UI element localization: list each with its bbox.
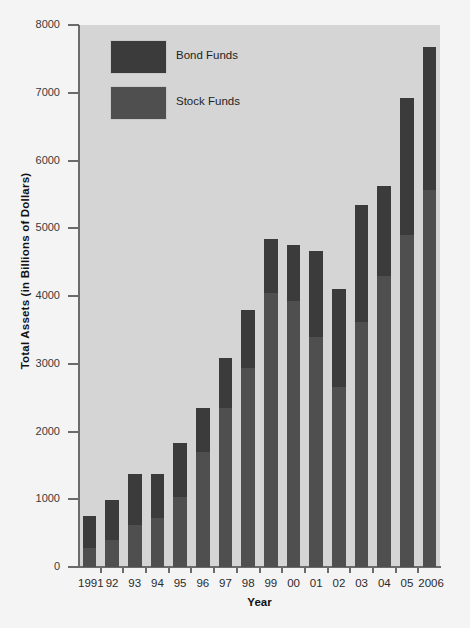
bar-97 [219, 358, 233, 567]
x-axis-tick [190, 566, 192, 573]
x-axis-tick-label: 92 [101, 576, 124, 590]
bar-segment-bond [423, 47, 437, 190]
bar-segment-bond [219, 358, 233, 408]
bar-segment-bond [264, 239, 278, 293]
bar-01 [309, 251, 323, 567]
x-axis-tick-label: 94 [146, 576, 169, 590]
x-axis-tick-label: 1991 [78, 576, 101, 590]
x-axis-tick [168, 566, 170, 573]
bar-segment-stock [332, 387, 346, 567]
bar-segment-bond [355, 205, 369, 322]
y-axis-title: Total Assets (in Billions of Dollars) [19, 141, 31, 401]
x-axis-tick [122, 566, 124, 573]
x-axis-tick-label: 02 [328, 576, 351, 590]
x-axis-tick-label: 99 [260, 576, 283, 590]
bar-segment-stock [264, 293, 278, 567]
y-axis-tick-label: 2000 [14, 426, 60, 437]
x-axis-tick [145, 566, 147, 573]
x-axis-tick-label: 04 [373, 576, 396, 590]
x-axis-tick [395, 566, 397, 573]
bar-03 [355, 205, 369, 567]
bar-2006 [423, 47, 437, 567]
y-axis-tick-label: 1000 [14, 493, 60, 504]
bar-segment-bond [241, 310, 255, 368]
bar-1991 [83, 516, 97, 567]
x-axis-tick-label: 95 [169, 576, 192, 590]
bar-94 [151, 474, 165, 567]
x-axis-tick-label: 05 [396, 576, 419, 590]
bar-segment-stock [105, 540, 119, 567]
bar-segment-bond [332, 289, 346, 388]
bar-segment-stock [241, 368, 255, 567]
legend-label-stock: Stock Funds [176, 95, 240, 107]
bar-segment-stock [309, 337, 323, 567]
bar-segment-stock [151, 518, 165, 567]
x-axis-tick-label: 01 [305, 576, 328, 590]
bar-segment-stock [377, 276, 391, 567]
bar-segment-stock [219, 408, 233, 567]
x-axis-tick [304, 566, 306, 573]
bar-segment-stock [83, 548, 97, 567]
bar-segment-bond [196, 408, 210, 452]
bar-segment-bond [400, 98, 414, 236]
bar-segment-bond [128, 474, 142, 525]
x-axis-tick [100, 566, 102, 573]
bar-98 [241, 310, 255, 567]
bar-93 [128, 474, 142, 567]
x-axis-tick-label: 00 [282, 576, 305, 590]
chart-figure: 010002000300040005000600070008000 199192… [0, 0, 470, 628]
bar-segment-bond [377, 186, 391, 275]
x-axis-title: Year [78, 596, 441, 608]
x-axis-tick [281, 566, 283, 573]
bar-segment-bond [83, 516, 97, 548]
x-axis-tick [417, 566, 419, 573]
x-axis-tick [213, 566, 215, 573]
bar-segment-stock [196, 452, 210, 567]
bar-segment-stock [128, 525, 142, 567]
x-axis-tick [327, 566, 329, 573]
bar-02 [332, 289, 346, 567]
bar-04 [377, 186, 391, 567]
y-axis-tick-label: 8000 [14, 19, 60, 30]
x-axis-tick-label: 96 [191, 576, 214, 590]
x-axis-tick-label: 93 [123, 576, 146, 590]
x-axis-tick [349, 566, 351, 573]
bar-92 [105, 500, 119, 567]
bar-05 [400, 98, 414, 568]
bar-segment-stock [423, 190, 437, 567]
bar-segment-bond [309, 251, 323, 337]
bar-00 [287, 245, 301, 567]
x-axis-tick [236, 566, 238, 573]
bar-segment-stock [400, 235, 414, 567]
x-axis-tick-label: 03 [350, 576, 373, 590]
y-axis-tick-label: 7000 [14, 87, 60, 98]
bar-segment-stock [173, 497, 187, 567]
legend-swatch-bond-icon [110, 40, 167, 74]
bar-segment-stock [287, 301, 301, 567]
x-axis-tick-label: 98 [237, 576, 260, 590]
legend-swatch-stock-icon [110, 86, 167, 120]
x-axis-tick [259, 566, 261, 573]
bar-95 [173, 443, 187, 567]
bar-96 [196, 408, 210, 567]
bar-segment-bond [287, 245, 301, 301]
x-axis-tick-label: 97 [214, 576, 237, 590]
bar-segment-bond [151, 474, 165, 519]
bar-segment-bond [105, 500, 119, 540]
bar-segment-stock [355, 322, 369, 567]
x-axis-tick [372, 566, 374, 573]
bar-99 [264, 239, 278, 567]
x-axis-tick-label: 2006 [418, 576, 441, 590]
bar-segment-bond [173, 443, 187, 497]
legend-label-bond: Bond Funds [176, 49, 238, 61]
y-axis-tick-label: 0 [14, 561, 60, 572]
